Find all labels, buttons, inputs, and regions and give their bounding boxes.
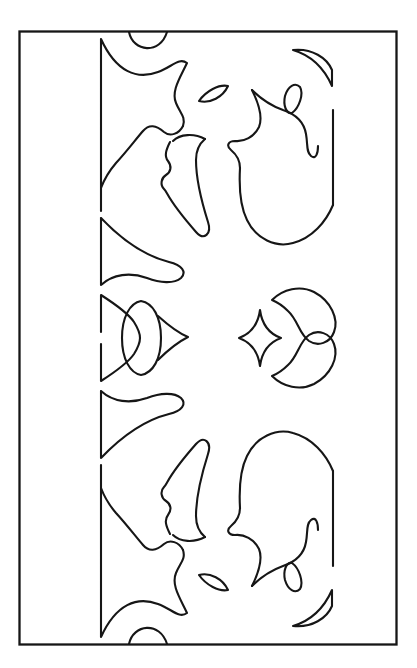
- paper-background: [0, 0, 417, 668]
- line-art-drawing: [0, 0, 417, 668]
- artwork-canvas: Abstract Line-Art Pattern Plate: [0, 0, 417, 668]
